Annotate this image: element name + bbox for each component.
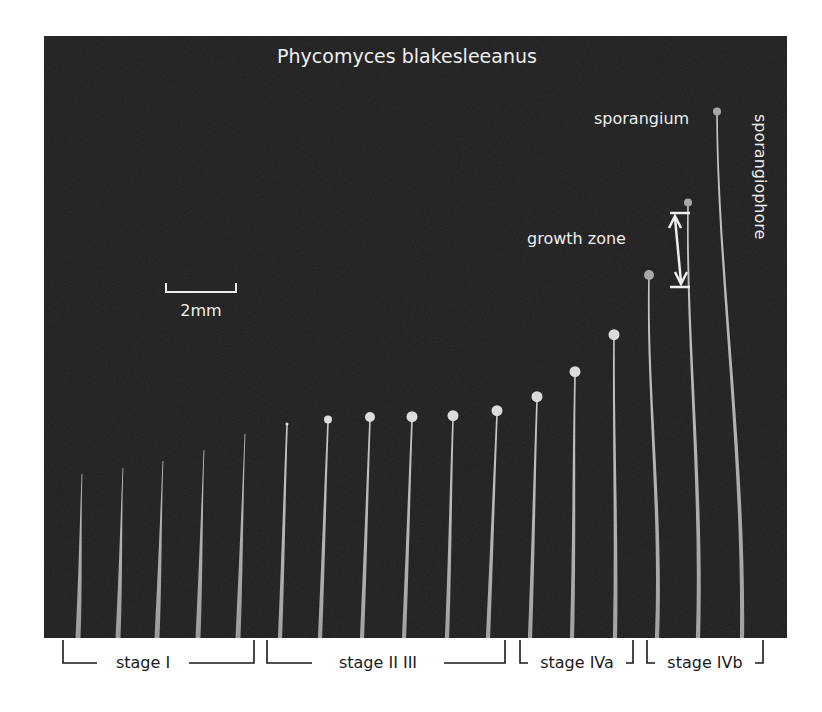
figure: Phycomyces blakesleeanus 2mm growth zone… bbox=[0, 0, 822, 712]
stage-2-bracket-left bbox=[267, 640, 312, 663]
sporangium-head bbox=[365, 412, 375, 422]
figure-canvas: Phycomyces blakesleeanus 2mm growth zone… bbox=[0, 0, 822, 712]
sporangium-head bbox=[570, 366, 581, 377]
stage-4a-bracket-left bbox=[520, 640, 528, 663]
sporangium-head bbox=[324, 416, 332, 424]
sporangium-head bbox=[644, 270, 654, 280]
growth-zone-label: growth zone bbox=[527, 229, 626, 248]
sporangium-head bbox=[286, 423, 289, 426]
sporangiophore-label: sporangiophore bbox=[751, 114, 770, 239]
stage-4a-label: stage IVa bbox=[540, 653, 614, 672]
sporangium-head bbox=[684, 199, 692, 207]
scale-bar-label: 2mm bbox=[180, 301, 221, 320]
stage-4b-label: stage IVb bbox=[667, 653, 742, 672]
sporangium-head bbox=[448, 410, 459, 421]
stage-2-3-label: stage II III bbox=[339, 653, 417, 672]
sporangium-head bbox=[492, 405, 503, 416]
stage-4b-bracket-left bbox=[647, 640, 655, 663]
stage-1-bracket-left bbox=[63, 640, 97, 663]
figure-title: Phycomyces blakesleeanus bbox=[277, 45, 537, 67]
stage-1-bracket-right bbox=[189, 640, 254, 663]
sporangium-head bbox=[609, 329, 620, 340]
stage-1-label: stage I bbox=[116, 653, 170, 672]
sporangium-label: sporangium bbox=[594, 109, 689, 128]
stage-2-bracket-right bbox=[444, 640, 505, 663]
sporangium-head bbox=[532, 391, 543, 402]
sporangium-head bbox=[713, 108, 721, 116]
sporangium-head bbox=[407, 411, 418, 422]
stage-4a-bracket-right bbox=[626, 640, 633, 663]
stage-4b-bracket-right bbox=[755, 640, 763, 663]
